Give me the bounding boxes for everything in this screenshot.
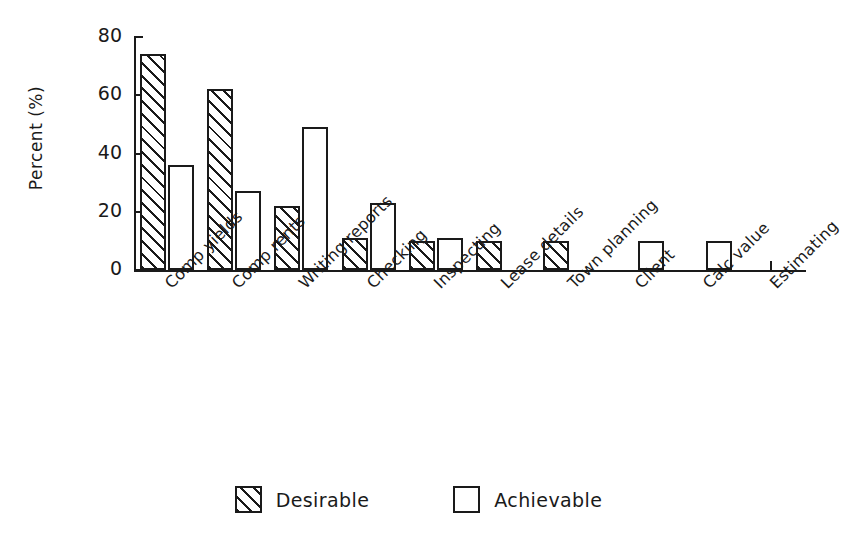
y-axis-title: Percent (%) bbox=[26, 58, 46, 218]
bar bbox=[140, 54, 166, 270]
y-axis-tick-label: 60 bbox=[76, 82, 122, 104]
plot-area: 020406080 bbox=[134, 37, 806, 270]
bar bbox=[770, 261, 772, 270]
legend-item: Achievable bbox=[453, 486, 602, 513]
legend-item: Desirable bbox=[235, 486, 370, 513]
chart-legend: DesirableAchievable bbox=[0, 486, 837, 513]
y-axis-tick-label: 80 bbox=[76, 24, 122, 46]
bar-group bbox=[672, 37, 739, 270]
open-square-icon bbox=[453, 486, 480, 513]
bar-group bbox=[134, 37, 201, 270]
legend-label: Desirable bbox=[276, 489, 370, 511]
legend-label: Achievable bbox=[494, 489, 602, 511]
y-axis-tick-label: 0 bbox=[76, 257, 122, 279]
y-axis-tick-label: 20 bbox=[76, 199, 122, 221]
hatched-square-icon bbox=[235, 486, 262, 513]
y-axis-tick-label: 40 bbox=[76, 141, 122, 163]
